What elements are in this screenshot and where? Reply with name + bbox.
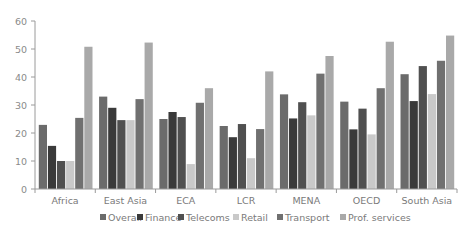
legend-item: Retail <box>233 212 268 223</box>
bar <box>168 112 176 189</box>
bar <box>377 88 385 189</box>
bar <box>75 118 83 189</box>
bar <box>358 109 366 189</box>
legend-label: Overall <box>108 212 142 223</box>
legend-label: Finance <box>145 212 181 223</box>
legend-label: Transport <box>284 212 330 223</box>
y-tick-label: 40 <box>15 72 27 83</box>
legend-swatch <box>340 214 346 220</box>
bar <box>196 103 204 189</box>
bar <box>428 94 436 189</box>
bar <box>298 102 306 189</box>
x-axis: AfricaEast AsiaECALCRMENAOECDSouth Asia <box>35 189 457 206</box>
category-label: ECA <box>176 195 196 206</box>
bar-group <box>99 43 153 189</box>
bar <box>247 158 255 189</box>
bar <box>349 129 357 189</box>
y-tick-label: 60 <box>15 16 27 27</box>
bar <box>289 118 297 189</box>
bar <box>108 108 116 189</box>
legend-swatch <box>277 214 283 220</box>
bar <box>229 137 237 189</box>
category-label: MENA <box>292 195 320 206</box>
bar <box>57 161 65 189</box>
legend-item: Transport <box>277 212 330 223</box>
bar <box>117 120 125 189</box>
legend-item: Finance <box>137 212 181 223</box>
bar <box>419 66 427 189</box>
bar <box>39 125 47 189</box>
bar <box>205 88 213 189</box>
y-axis: 0102030405060 <box>15 16 35 195</box>
legend-label: Retail <box>241 212 268 223</box>
bars <box>39 36 454 189</box>
legend-label: Telecoms <box>185 212 230 223</box>
y-tick-label: 20 <box>15 128 27 139</box>
bar-group <box>220 71 274 189</box>
legend-item: Prof. services <box>340 212 411 223</box>
category-label: South Asia <box>402 195 453 206</box>
bar <box>446 36 454 189</box>
y-tick-label: 10 <box>15 156 27 167</box>
bar <box>178 117 186 189</box>
bar <box>220 126 228 189</box>
bar-group <box>401 36 455 189</box>
bar <box>316 74 324 189</box>
bar <box>307 115 315 189</box>
bar <box>187 164 195 189</box>
bar <box>145 43 153 189</box>
category-label: OECD <box>353 195 380 206</box>
bar <box>256 129 264 189</box>
grouped-bar-chart: 0102030405060 AfricaEast AsiaECALCRMENAO… <box>0 0 468 241</box>
bar <box>401 74 409 189</box>
legend: OverallFinanceTelecomsRetailTransportPro… <box>100 212 411 223</box>
bar <box>99 97 107 189</box>
category-label: Africa <box>52 195 79 206</box>
legend-swatch <box>100 214 106 220</box>
legend-item: Overall <box>100 212 142 223</box>
category-label: East Asia <box>104 195 147 206</box>
bar <box>340 102 348 189</box>
bar <box>280 94 288 189</box>
bar <box>66 161 74 189</box>
bar <box>386 42 394 189</box>
legend-swatch <box>233 214 239 220</box>
y-tick-label: 30 <box>15 100 27 111</box>
bar <box>238 124 246 189</box>
bar-group <box>159 88 213 189</box>
bar <box>135 99 143 189</box>
bar <box>325 56 333 189</box>
legend-swatch <box>178 214 184 220</box>
legend-item: Telecoms <box>178 212 230 223</box>
bar <box>410 101 418 189</box>
bar <box>265 71 273 189</box>
bar <box>437 61 445 189</box>
legend-swatch <box>137 214 143 220</box>
bar-group <box>340 42 394 189</box>
bar <box>126 120 134 189</box>
bar-group <box>280 56 334 189</box>
bar <box>48 146 56 189</box>
category-label: LCR <box>237 195 256 206</box>
bar <box>84 47 92 189</box>
bar-group <box>39 47 93 189</box>
bar <box>159 119 167 189</box>
bar <box>368 134 376 189</box>
y-tick-label: 0 <box>21 184 27 195</box>
y-tick-label: 50 <box>15 44 27 55</box>
legend-label: Prof. services <box>348 212 411 223</box>
